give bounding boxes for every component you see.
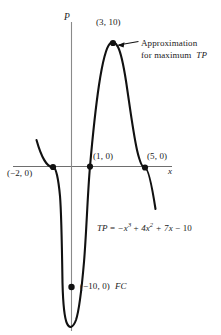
- equation-term-3: + 7x: [153, 223, 175, 233]
- point-x-intercept-middle: [87, 163, 93, 169]
- x-axis-label: x: [168, 166, 172, 177]
- fixed-cost-abbreviation: FC: [110, 281, 127, 291]
- profit-equation: TP = −x3 + 4x2 + 7x − 10: [97, 223, 192, 234]
- p-axis-label: P: [64, 12, 70, 23]
- annotation-line-2-text: for maximum: [141, 50, 191, 60]
- annotation-tp-symbol: TP: [191, 50, 207, 60]
- point-x-intercept-left: [50, 164, 56, 170]
- maximum-point-label: (3, 10): [96, 17, 121, 28]
- equation-term-4: − 10: [175, 223, 192, 233]
- fixed-cost-label: (−10, 0)FC: [80, 281, 127, 292]
- equation-lhs: TP: [97, 223, 108, 233]
- annotation-line-2: for maximumTP: [141, 49, 207, 61]
- equation-term-2-coef: 4x: [141, 223, 150, 233]
- annotation-line-1: Approximation: [141, 37, 207, 49]
- x-intercept-right-label: (5, 0): [147, 151, 167, 162]
- point-x-intercept-right: [142, 164, 148, 170]
- point-fixed-cost: [68, 284, 74, 290]
- fixed-cost-coordinate: (−10, 0): [80, 281, 110, 291]
- equation-equals: =: [108, 223, 118, 233]
- equation-term-1-coef: −x: [118, 223, 128, 233]
- equation-term-2-sign: +: [131, 223, 141, 233]
- point-maximum: [110, 40, 116, 46]
- x-intercept-left-label: (−2, 0): [7, 168, 32, 179]
- x-intercept-middle-label: (1, 0): [93, 151, 113, 162]
- approximation-annotation: Approximation for maximumTP: [141, 37, 207, 61]
